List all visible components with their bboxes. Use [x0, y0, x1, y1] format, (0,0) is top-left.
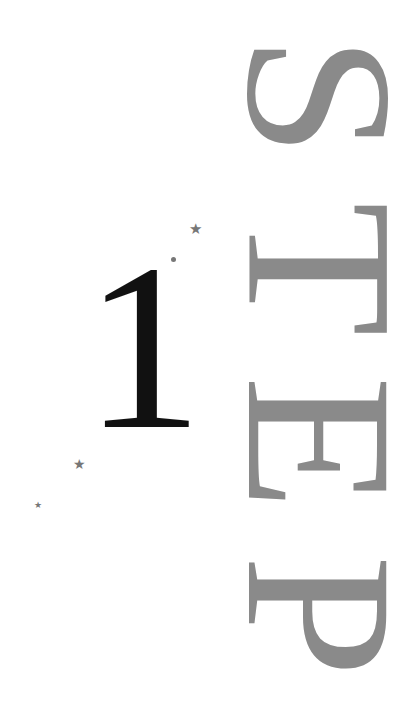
letter-e: E [244, 359, 396, 527]
star-icon: ★ [189, 222, 202, 237]
dot-icon [171, 257, 176, 262]
letter-p: P [244, 532, 396, 700]
step-word-container: S T E P [244, 20, 396, 692]
star-icon: ★ [73, 457, 86, 471]
letter-s: S [244, 12, 396, 180]
letter-t: T [244, 185, 396, 353]
step-number: 1 [84, 262, 168, 432]
step-word: S T E P [244, 16, 396, 696]
star-icon: ★ [34, 501, 42, 510]
